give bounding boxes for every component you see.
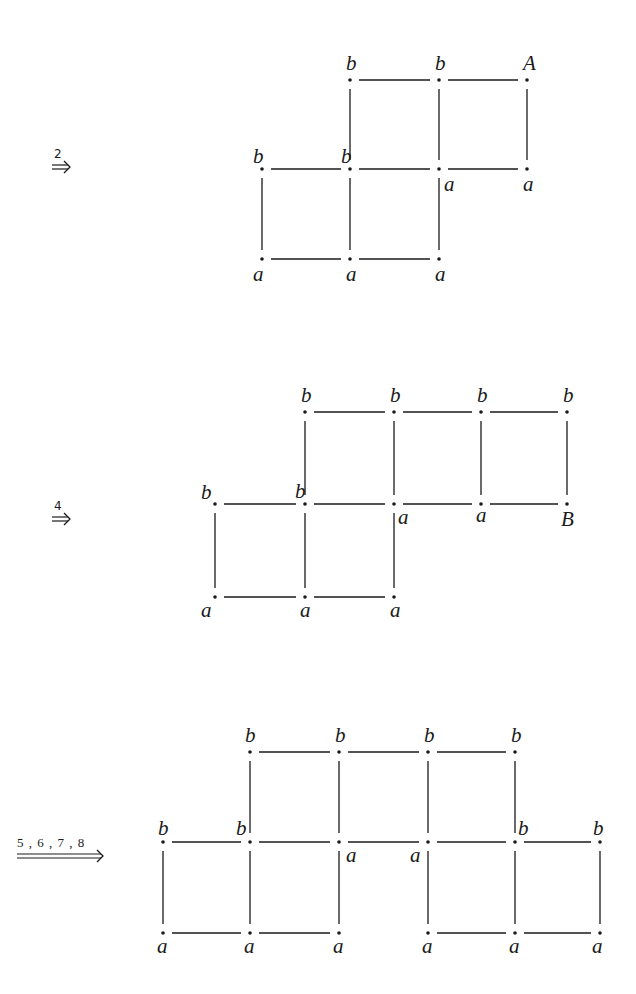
vertex-label: a: [444, 172, 455, 196]
vertex-dot: [348, 257, 352, 261]
vertex-dot: [565, 410, 569, 414]
vertex-dot: [513, 840, 517, 844]
vertex-label: a: [476, 503, 487, 527]
vertex-label: b: [346, 51, 357, 75]
vertex-dot: [337, 840, 341, 844]
vertex-dot: [260, 257, 264, 261]
vertex-dot: [525, 78, 529, 82]
vertex-label: b: [301, 383, 312, 407]
vertex-label: a: [346, 262, 357, 286]
vertex-dot: [161, 840, 165, 844]
rule-step-label: 2: [54, 147, 62, 161]
graph-step-2: bbAbbaaaaa2: [52, 51, 536, 286]
vertex-label: b: [518, 816, 529, 840]
vertex-dot: [248, 750, 252, 754]
vertex-label: a: [333, 934, 344, 958]
vertex-label: b: [201, 480, 212, 504]
vertex-label: a: [346, 843, 357, 867]
vertex-dot: [437, 78, 441, 82]
vertex-label: b: [253, 144, 264, 168]
vertex-dot: [426, 750, 430, 754]
vertex-dot: [213, 595, 217, 599]
vertex-label: a: [509, 934, 520, 958]
vertex-dot: [392, 410, 396, 414]
vertex-label: a: [157, 934, 168, 958]
rule-step-label: 5 , 6 , 7 , 8: [17, 835, 85, 850]
vertex-dot: [598, 840, 602, 844]
vertex-label: b: [477, 383, 488, 407]
vertex-dot: [303, 410, 307, 414]
vertex-label: A: [521, 51, 536, 75]
figures-root: bbAbbaaaaa2bbbbbbaaBaaa4bbbbbbaabbaaaaaa…: [17, 51, 604, 958]
vertex-label: a: [300, 598, 311, 622]
vertex-dot: [437, 257, 441, 261]
vertex-label: b: [335, 723, 346, 747]
double-arrow-icon: [17, 850, 103, 862]
vertex-label: b: [435, 51, 446, 75]
vertex-label: a: [253, 262, 264, 286]
vertex-label: b: [563, 383, 574, 407]
double-arrow-icon: [52, 161, 70, 173]
vertex-label: b: [245, 723, 256, 747]
vertex-label: b: [158, 816, 169, 840]
vertex-dot: [513, 750, 517, 754]
vertex-label: a: [201, 598, 212, 622]
vertex-label: B: [561, 507, 574, 531]
vertex-label: b: [295, 479, 306, 503]
vertex-dot: [337, 750, 341, 754]
vertex-label: a: [244, 934, 255, 958]
vertex-label: a: [435, 262, 446, 286]
vertex-dot: [426, 840, 430, 844]
vertex-dot: [479, 410, 483, 414]
vertex-dot: [565, 502, 569, 506]
vertex-dot: [248, 840, 252, 844]
vertex-label: a: [390, 598, 401, 622]
vertex-dot: [437, 167, 441, 171]
graph-step-4: bbbbbbaaBaaa4: [52, 383, 574, 622]
rule-step-label: 4: [54, 499, 62, 513]
vertex-label: a: [410, 843, 421, 867]
vertex-dot: [213, 502, 217, 506]
vertex-label: b: [236, 816, 247, 840]
double-arrow-icon: [52, 513, 70, 525]
vertex-dot: [525, 167, 529, 171]
vertex-label: b: [511, 723, 522, 747]
vertex-label: a: [523, 172, 534, 196]
graph-step-5678: bbbbbbaabbaaaaaa5 , 6 , 7 , 8: [17, 723, 604, 958]
vertex-label: b: [424, 723, 435, 747]
vertex-dot: [392, 502, 396, 506]
vertex-label: b: [593, 816, 604, 840]
vertex-label: b: [341, 144, 352, 168]
vertex-label: a: [398, 505, 409, 529]
vertex-label: a: [422, 934, 433, 958]
vertex-label: b: [390, 383, 401, 407]
vertex-dot: [348, 78, 352, 82]
vertex-label: a: [592, 934, 603, 958]
derivation-figure: bbAbbaaaaa2bbbbbbaaBaaa4bbbbbbaabbaaaaaa…: [0, 0, 636, 994]
